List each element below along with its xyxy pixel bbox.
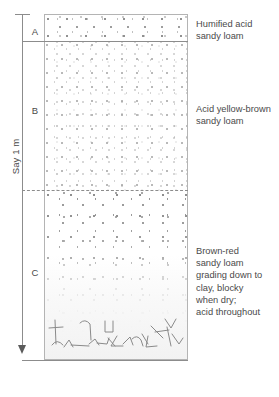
scale-label: Say 1 m: [10, 128, 21, 186]
description-a-line-2: sandy loam: [196, 30, 279, 42]
boundary-b-c: [22, 190, 188, 191]
horizon-a-stipple: [45, 15, 187, 42]
description-horizon-c: Brown-red sandy loam grading down to cla…: [196, 245, 279, 318]
horizon-a-band: [45, 15, 187, 42]
scale-down-arrow-icon: [18, 345, 26, 354]
description-horizon-a: Humified acid sandy loam: [196, 18, 279, 42]
description-c-line-2: sandy loam: [196, 257, 279, 269]
rock-fragments-icon: [45, 314, 188, 359]
scale-bar-line: [22, 14, 23, 350]
description-c-line-1: Brown-red: [196, 245, 279, 257]
horizon-letter-a: A: [28, 26, 42, 37]
description-c-line-5: when dry;: [196, 294, 279, 306]
horizon-letter-b: B: [28, 105, 42, 116]
soil-profile-figure: Say 1 m: [0, 0, 279, 397]
description-b-line-1: Acid yellow-brown: [196, 103, 279, 115]
boundary-a-b: [22, 41, 188, 42]
description-c-line-6: acid throughout: [196, 306, 279, 318]
horizon-c-band: [45, 191, 187, 359]
rock-fragment-layer: [45, 314, 187, 359]
horizon-letter-c: C: [28, 267, 42, 278]
description-c-line-3: grading down to: [196, 269, 279, 281]
profile-base-line: [22, 360, 188, 361]
description-c-line-4: clay, blocky: [196, 282, 279, 294]
horizon-b-stipple: [45, 42, 187, 191]
horizon-b-band: [45, 42, 187, 191]
profile-column: [44, 14, 188, 360]
description-horizon-b: Acid yellow-brown sandy loam: [196, 103, 279, 127]
description-a-line-1: Humified acid: [196, 18, 279, 30]
description-b-line-2: sandy loam: [196, 115, 279, 127]
